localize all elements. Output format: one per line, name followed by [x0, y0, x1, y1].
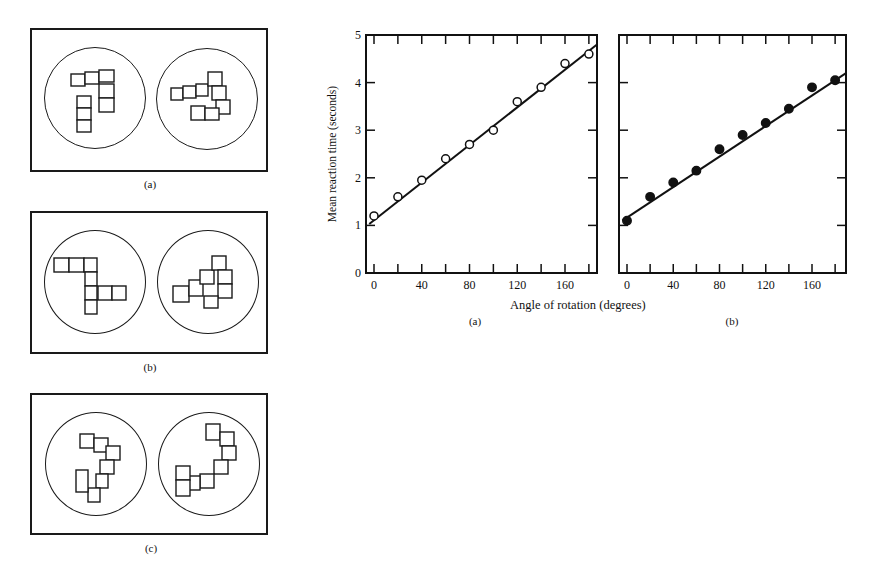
- y-tick-label: 1: [355, 218, 361, 232]
- data-point: [623, 216, 631, 224]
- data-point: [646, 193, 654, 201]
- reaction-time-charts: 04080120160012345Mean reaction time (sec…: [0, 0, 872, 569]
- y-tick-label: 2: [355, 171, 361, 185]
- y-tick-label: 3: [355, 123, 361, 137]
- data-point: [669, 178, 677, 186]
- data-point: [585, 50, 593, 58]
- data-point: [418, 176, 426, 184]
- data-point: [442, 155, 450, 163]
- data-point: [513, 98, 521, 106]
- y-axis-label: Mean reaction time (seconds): [326, 86, 339, 223]
- chart-b: 04080120160(b): [619, 35, 846, 328]
- data-point: [715, 145, 723, 153]
- data-point: [394, 193, 402, 201]
- x-axis-label: Angle of rotation (degrees): [510, 298, 646, 312]
- fit-line: [622, 73, 846, 221]
- data-point: [692, 166, 700, 174]
- x-tick-label: 160: [803, 278, 821, 292]
- y-tick-label: 4: [355, 76, 361, 90]
- fit-line: [369, 45, 597, 224]
- x-tick-label: 0: [624, 278, 630, 292]
- data-point: [537, 83, 545, 91]
- data-point: [762, 119, 770, 127]
- data-point: [466, 140, 474, 148]
- y-tick-label: 5: [355, 28, 361, 42]
- x-tick-label: 80: [464, 278, 476, 292]
- chart-a: 04080120160012345Mean reaction time (sec…: [326, 28, 597, 328]
- chart-caption: (a): [469, 315, 482, 328]
- data-point: [489, 126, 497, 134]
- x-tick-label: 160: [556, 278, 574, 292]
- x-tick-label: 40: [667, 278, 679, 292]
- data-point: [561, 60, 569, 68]
- data-point: [808, 83, 816, 91]
- x-tick-label: 120: [757, 278, 775, 292]
- data-point: [831, 76, 839, 84]
- chart-caption: (b): [726, 315, 739, 328]
- x-tick-label: 80: [714, 278, 726, 292]
- data-point: [785, 105, 793, 113]
- data-point: [738, 131, 746, 139]
- x-tick-label: 120: [508, 278, 526, 292]
- x-tick-label: 0: [371, 278, 377, 292]
- data-point: [370, 212, 378, 220]
- y-tick-label: 0: [355, 266, 361, 280]
- x-tick-label: 40: [416, 278, 428, 292]
- plot-frame: [619, 35, 846, 273]
